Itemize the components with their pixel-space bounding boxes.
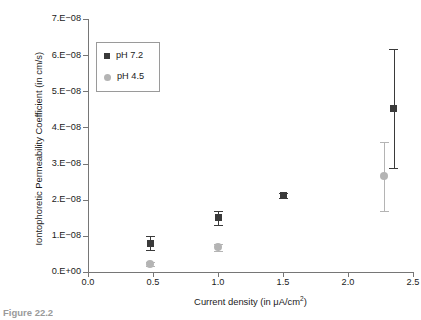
x-tick-label: 2.0: [328, 278, 368, 287]
error-bar-cap-lower: [214, 251, 223, 252]
y-tick: [83, 127, 88, 128]
error-bar-cap-lower: [380, 211, 389, 212]
legend-label-ph-7-2: pH 7.2: [116, 51, 143, 60]
x-axis-title: Current density (in μA/cm2): [88, 294, 413, 307]
error-bar-cap-upper: [389, 49, 398, 50]
y-tick: [83, 55, 88, 56]
y-axis-title: Iontophoretic Permeability Coefficient (…: [34, 24, 43, 274]
error-bar-cap-lower: [389, 168, 398, 169]
figure-caption-text: Figure 22.2: [3, 308, 53, 318]
legend-entry-ph-7-2: pH 7.2: [104, 50, 143, 62]
chart-legend: pH 7.2 pH 4.5: [96, 42, 160, 92]
y-tick: [83, 91, 88, 92]
error-bar-cap-upper: [146, 236, 155, 237]
y-axis-line: [88, 19, 89, 272]
square-marker: [280, 192, 287, 199]
x-axis-line: [88, 272, 413, 273]
error-bar-cap-upper: [380, 142, 389, 143]
x-axis-title-text: Current density (in μA/cm2): [194, 296, 307, 307]
legend-entry-ph-4-5: pH 4.5: [104, 71, 144, 83]
error-bar-cap-lower: [214, 225, 223, 226]
legend-label-ph-4-5: pH 4.5: [117, 72, 144, 81]
circle-marker-icon: [104, 74, 111, 81]
x-tick-label: 2.5: [393, 278, 421, 287]
square-marker-icon: [104, 53, 110, 59]
x-tick-label: 0.0: [68, 278, 108, 287]
y-tick: [83, 164, 88, 165]
square-marker: [147, 240, 154, 247]
square-marker: [390, 105, 397, 112]
x-tick-label: 1.5: [263, 278, 303, 287]
error-bar-cap-upper: [214, 211, 223, 212]
circle-marker: [380, 172, 388, 180]
y-tick: [83, 236, 88, 237]
y-tick-label: 7.E−08: [31, 14, 81, 23]
error-bar-cap-lower: [146, 250, 155, 251]
y-tick: [83, 19, 88, 20]
square-marker: [215, 214, 222, 221]
x-tick-label: 1.0: [198, 278, 238, 287]
scatter-plot: 0.E+001.E−082.E−083.E−084.E−085.E−086.E−…: [0, 0, 421, 320]
x-tick-label: 0.5: [133, 278, 173, 287]
figure-caption: Figure 22.2: [3, 308, 53, 319]
figure-container: 0.E+001.E−082.E−083.E−084.E−085.E−086.E−…: [0, 0, 421, 320]
y-tick: [83, 200, 88, 201]
